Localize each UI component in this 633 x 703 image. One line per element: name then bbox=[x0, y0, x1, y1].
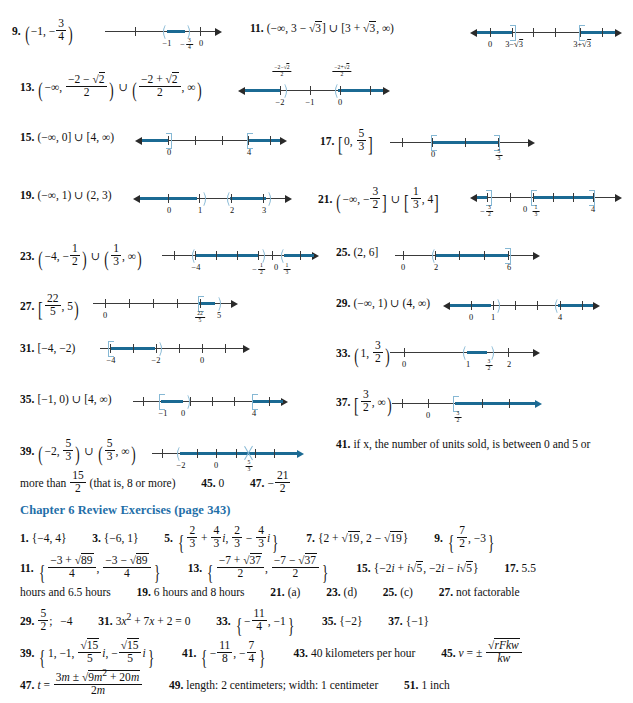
tick-label-above: −2+√22 bbox=[331, 65, 352, 78]
tick bbox=[602, 28, 603, 37]
tick bbox=[133, 344, 134, 353]
fraction-1-2: 12 bbox=[70, 243, 80, 268]
paren-open: ( bbox=[355, 350, 359, 363]
exercise-9: 9.(−1, −34) bbox=[12, 18, 74, 43]
tick-label: 0 bbox=[431, 151, 435, 160]
tick bbox=[300, 251, 301, 260]
exercise-number: 33. bbox=[216, 615, 230, 627]
tick bbox=[310, 86, 311, 95]
tick bbox=[216, 449, 217, 458]
exercise-number: 43. bbox=[294, 647, 308, 659]
closed-endpoint bbox=[431, 135, 437, 151]
tick bbox=[174, 251, 175, 260]
paren-close: ) bbox=[76, 448, 80, 461]
brace-open: { bbox=[236, 619, 242, 632]
exercise-number: 19. bbox=[20, 189, 34, 201]
tick bbox=[212, 397, 213, 406]
tick bbox=[509, 399, 510, 408]
tick bbox=[537, 301, 538, 310]
brace-close: } bbox=[154, 566, 160, 579]
exercise-41-line1: if x, the number of units sold, is betwe… bbox=[353, 438, 590, 450]
closed-endpoint bbox=[166, 133, 172, 149]
brace-open: { bbox=[39, 566, 45, 579]
radical: √3 bbox=[309, 21, 322, 34]
exercise-41-continuation: more than 152 (that is, 8 or more) 45.0 … bbox=[20, 470, 291, 495]
brace-close: } bbox=[322, 566, 328, 579]
tick bbox=[237, 251, 238, 260]
review-answer-19: 6 hours and 8 hours bbox=[154, 586, 245, 598]
tick bbox=[269, 397, 270, 406]
exercise-39: 39.(−2, 53) ∪ (53, ∞) bbox=[20, 438, 137, 463]
review-row-4: 29.52;−4 31.3x2 + 7x + 2 = 0 33.{−114, −… bbox=[20, 608, 429, 633]
fraction: −2 − √22 bbox=[66, 74, 108, 99]
tick-label: 0 bbox=[274, 264, 278, 273]
fraction: −2 + √22 bbox=[139, 74, 181, 99]
exercise-number: 25. bbox=[383, 586, 397, 598]
shaded-interval bbox=[455, 402, 537, 405]
exercise-41: 41.if x, the number of units sold, is be… bbox=[336, 438, 590, 450]
exercise-19: 19.(−∞, 1) ∪ (2, 3) bbox=[20, 188, 112, 202]
exercise-47-answer: −212 bbox=[267, 477, 291, 489]
tick bbox=[153, 299, 154, 308]
exercise-11: 11.(−∞, 3 − √3] ∪ [3 + √3, ∞) bbox=[250, 21, 394, 35]
exercise-number: 41. bbox=[336, 438, 350, 450]
exercise-number: 11. bbox=[20, 562, 34, 574]
review-row-6: 47.t = 3m ± √9m2 + 20m2m 49.length: 2 ce… bbox=[20, 668, 450, 697]
tick-label: 0 bbox=[103, 312, 107, 321]
closed-endpoint bbox=[247, 133, 253, 149]
tick-label: 32 bbox=[454, 411, 463, 424]
paren-open: ( bbox=[132, 84, 136, 97]
tick-label: 0 bbox=[401, 264, 405, 273]
exercise-31: 31.[−4, −2) bbox=[20, 342, 75, 354]
exercise-29: 29.(−∞, 1) ∪ (4, ∞) bbox=[336, 296, 430, 310]
exercise-number: 27. bbox=[439, 586, 453, 598]
tick-label: 2 bbox=[230, 207, 234, 216]
review-answer-25: (c) bbox=[400, 586, 413, 598]
shaded-interval bbox=[474, 31, 512, 34]
review-answer-3: {−6, 1} bbox=[104, 532, 139, 544]
review-answer-27: not factorable bbox=[456, 586, 520, 598]
exercise-number: 47. bbox=[20, 679, 34, 691]
tick bbox=[510, 193, 511, 202]
exercise-number: 17. bbox=[504, 562, 518, 574]
tick-label: 0 bbox=[488, 41, 492, 50]
tick-label: 3 bbox=[262, 207, 266, 216]
fraction-22-5: 225 bbox=[45, 293, 61, 318]
tick bbox=[582, 301, 583, 310]
exercise-45-answer: 0 bbox=[219, 477, 225, 489]
exercise-number: 19. bbox=[136, 586, 150, 598]
closed-endpoint bbox=[252, 394, 258, 410]
paren-close: ) bbox=[82, 253, 86, 266]
axis-arrow-right bbox=[533, 349, 540, 357]
tick-label: 0 bbox=[523, 206, 527, 215]
brace-close: } bbox=[288, 619, 294, 632]
review-answer-23: (d) bbox=[344, 586, 357, 598]
shaded-interval bbox=[447, 304, 491, 307]
brace-open: { bbox=[207, 566, 213, 579]
axis-arrow-right bbox=[285, 195, 292, 203]
tick bbox=[465, 138, 466, 147]
exercise-17: 17.[0, 53] bbox=[320, 128, 374, 153]
tick bbox=[200, 27, 201, 36]
closed-endpoint bbox=[108, 341, 114, 357]
tick bbox=[135, 27, 136, 36]
tick bbox=[179, 344, 180, 353]
exercise-37: 37.[32, ∞) bbox=[336, 389, 393, 414]
tick-label: 0 bbox=[200, 357, 204, 366]
review-row-2: 11.{−3 + √894, −3 − √894} 13.{−7 + √372,… bbox=[20, 555, 536, 580]
exercise-number: 7. bbox=[306, 532, 315, 544]
exercise-number: 35. bbox=[20, 393, 34, 405]
exercise-number: 3. bbox=[92, 532, 101, 544]
exercise-number: 9. bbox=[434, 532, 443, 544]
brace-close: } bbox=[488, 536, 494, 549]
review-answer-43: 40 kilometers per hour bbox=[311, 647, 415, 659]
tick-label: −2 bbox=[276, 99, 285, 108]
tick-label: 4 bbox=[558, 314, 562, 323]
exercise-25: 25.(2, 6] bbox=[336, 246, 378, 258]
exercise-number: 29. bbox=[336, 297, 350, 309]
tick bbox=[143, 397, 144, 406]
tick-label: 0 bbox=[181, 410, 185, 419]
tick-label: −1 bbox=[159, 410, 168, 419]
fraction-3-2: 32 bbox=[370, 186, 380, 211]
closed-endpoint bbox=[510, 25, 516, 41]
